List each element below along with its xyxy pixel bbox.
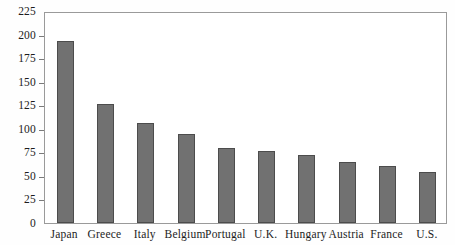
- y-tick-label: 150: [0, 77, 36, 89]
- x-tick-label: Greece: [88, 228, 122, 241]
- x-tick-label: Austria: [329, 228, 364, 241]
- bar: [339, 162, 356, 223]
- x-tick-label: Japan: [51, 228, 78, 241]
- y-tick-mark: [39, 200, 44, 201]
- bar: [218, 148, 235, 223]
- y-tick-mark: [39, 177, 44, 178]
- y-tick-mark: [39, 106, 44, 107]
- y-tick-label: 175: [0, 53, 36, 65]
- y-tick-label: 25: [0, 195, 36, 207]
- y-tick-label: 125: [0, 100, 36, 112]
- x-tick-label: France: [370, 228, 403, 241]
- bar: [258, 151, 275, 223]
- y-tick-label: 50: [0, 171, 36, 183]
- y-tick-label: 0: [0, 218, 36, 230]
- x-tick-label: U.S.: [416, 228, 437, 241]
- y-tick-mark: [39, 59, 44, 60]
- y-tick-label: 75: [0, 148, 36, 160]
- x-tick-label: Italy: [134, 228, 156, 241]
- bar: [419, 172, 436, 223]
- x-axis: JapanGreeceItalyBelgiumPortugalU.K.Hunga…: [44, 228, 447, 245]
- y-tick-label: 200: [0, 30, 36, 42]
- x-tick-label: Belgium: [165, 228, 206, 241]
- y-tick-mark: [39, 130, 44, 131]
- bar: [178, 134, 195, 224]
- plot-area: [44, 12, 447, 224]
- x-tick-label: Hungary: [285, 228, 327, 241]
- bar: [97, 104, 114, 223]
- y-tick-mark: [39, 36, 44, 37]
- bar: [137, 123, 154, 223]
- x-tick-label: Portugal: [205, 228, 246, 241]
- bar: [379, 166, 396, 223]
- bar: [57, 41, 74, 223]
- y-axis: 0255075100125150175200225: [0, 0, 36, 245]
- bar-chart: 0255075100125150175200225 JapanGreeceIta…: [0, 0, 455, 245]
- bars-layer: [45, 13, 446, 223]
- y-tick-label: 225: [0, 6, 36, 18]
- bar: [298, 155, 315, 223]
- y-tick-label: 100: [0, 124, 36, 136]
- y-tick-mark: [39, 83, 44, 84]
- y-tick-mark: [39, 153, 44, 154]
- x-tick-label: U.K.: [254, 228, 277, 241]
